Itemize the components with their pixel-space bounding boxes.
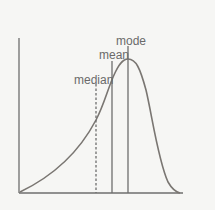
mode-label: mode [116,34,146,48]
mean-label: mean [99,48,129,62]
median-label: median [74,73,113,87]
skewed-distribution-diagram: median mean mode [0,0,215,210]
